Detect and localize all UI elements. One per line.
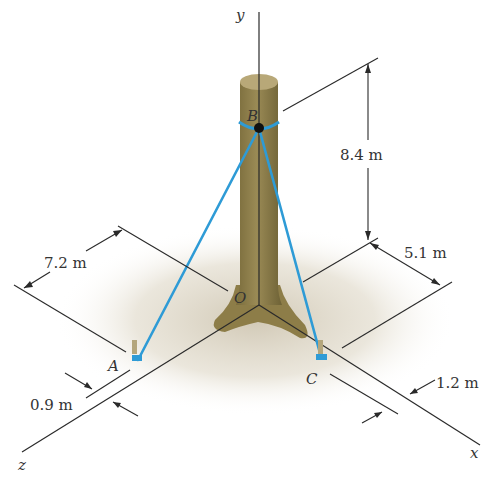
y-axis-label: y: [235, 6, 245, 24]
dim-5-1-label: 5.1 m: [404, 244, 447, 262]
arrow-icon: [365, 231, 371, 240]
dim-7-2-label: 7.2 m: [44, 254, 87, 272]
arrow-icon: [84, 382, 92, 389]
point-B-label: B: [246, 107, 258, 125]
dim-8-4-label: 8.4 m: [340, 146, 383, 164]
origin-label: O: [234, 289, 246, 307]
dim-line-top: [283, 58, 378, 111]
arrow-icon: [113, 402, 121, 408]
z-axis-label: z: [17, 456, 26, 474]
arrow-icon: [410, 388, 418, 394]
x-axis-label: x: [470, 444, 479, 462]
point-C-label: C: [306, 370, 318, 388]
dim-1-2-label: 1.2 m: [436, 374, 479, 392]
diagram-canvas: y z x O B A C 8.4 m 5.1 m 7.2 m 0.9 m 1.…: [0, 0, 499, 486]
dim-0-9-label: 0.9 m: [30, 396, 73, 414]
arrow-icon: [24, 281, 33, 288]
arrow-icon: [113, 230, 122, 237]
point-A-label: A: [106, 357, 119, 375]
arrow-icon: [374, 412, 382, 418]
